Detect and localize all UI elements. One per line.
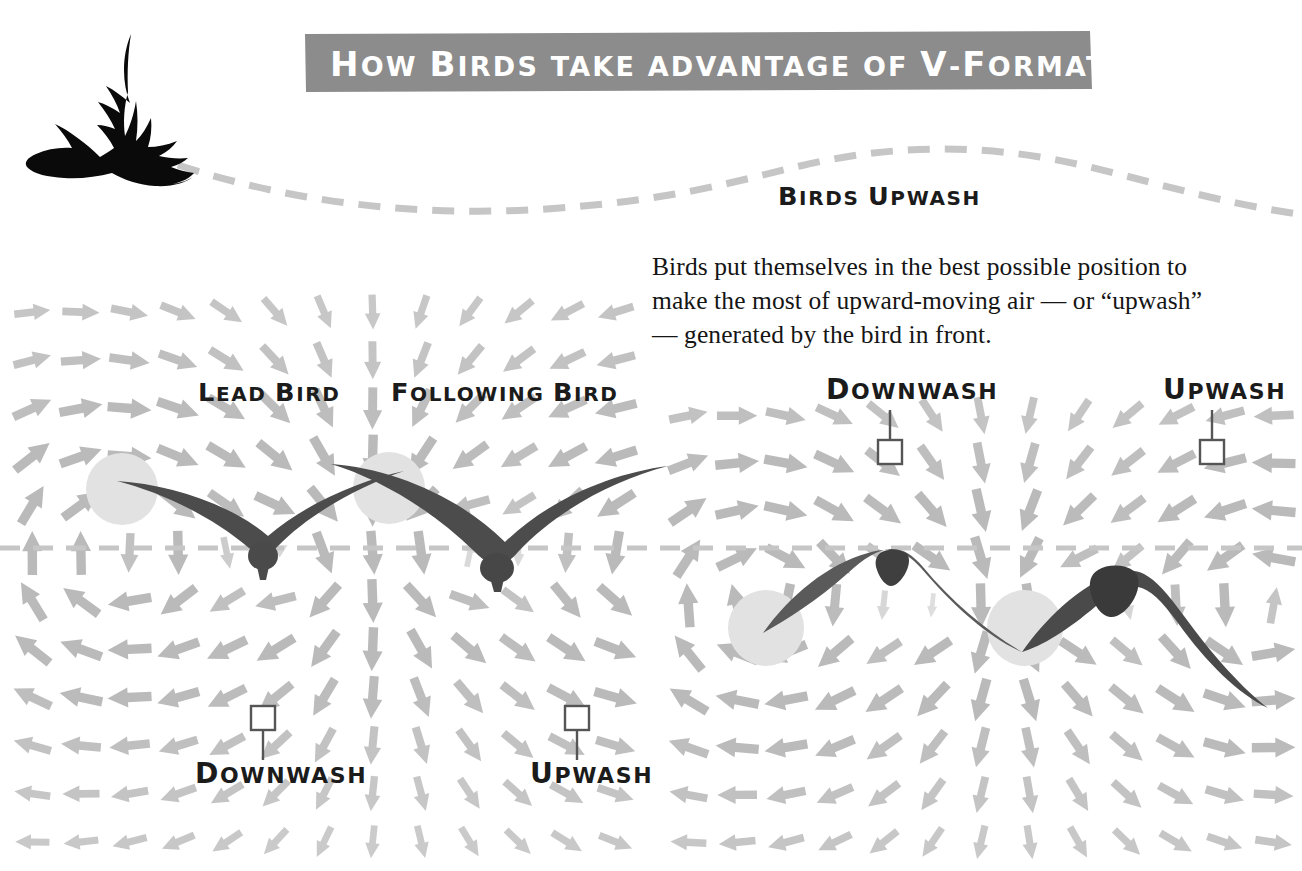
- flow-arrow: [64, 834, 99, 849]
- flow-arrow: [1254, 407, 1294, 425]
- flow-arrow: [1203, 689, 1246, 711]
- flow-arrow: [403, 582, 436, 618]
- flow-arrow: [1061, 681, 1093, 717]
- flow-arrow: [973, 825, 988, 859]
- flow-arrow: [1022, 825, 1037, 859]
- flow-arrow: [12, 399, 52, 421]
- flow-arrow: [365, 825, 379, 858]
- flow-arrow: [1159, 403, 1196, 425]
- flow-arrow: [71, 531, 91, 575]
- flow-arrow: [12, 443, 50, 474]
- flow-arrow: [1063, 492, 1097, 525]
- flow-arrow: [109, 737, 150, 755]
- flow-arrow: [970, 535, 991, 578]
- flow-arrow: [1112, 827, 1140, 854]
- flow-arrow: [459, 296, 483, 327]
- flow-arrow: [504, 827, 531, 853]
- flow-arrow: [548, 442, 588, 467]
- marker-square: [565, 706, 589, 730]
- intro-line: Birds put themselves in the best possibl…: [652, 250, 1212, 284]
- flow-arrow: [413, 341, 432, 378]
- flow-arrow: [413, 776, 429, 811]
- wingtip-vortex-circles: [86, 452, 1063, 666]
- flow-arrow: [1156, 733, 1195, 757]
- flow-arrow: [317, 825, 334, 856]
- flow-arrow: [107, 398, 151, 418]
- flow-arrow: [1068, 398, 1092, 432]
- flow-arrow: [1109, 731, 1143, 761]
- flow-arrow: [866, 400, 899, 428]
- flow-arrow: [1058, 637, 1097, 665]
- flow-arrow: [59, 398, 103, 418]
- flow-arrow: [208, 346, 244, 371]
- flow-arrow: [550, 581, 581, 617]
- flow-arrow: [595, 736, 635, 755]
- flow-arrow: [61, 351, 101, 369]
- flow-arrow: [972, 727, 991, 768]
- flow-arrow: [866, 638, 902, 664]
- label-right-downwash: DOWNWASH: [826, 373, 998, 406]
- flow-arrow: [61, 736, 101, 754]
- flow-arrow: [62, 304, 99, 321]
- flow-arrow: [501, 442, 539, 467]
- flow-arrow: [813, 496, 854, 522]
- flow-arrow: [255, 439, 292, 470]
- following-bird-tail: [489, 574, 505, 592]
- flying-goose-silhouette: [26, 34, 194, 186]
- flow-arrow: [1158, 633, 1191, 669]
- flow-arrow: [121, 533, 139, 573]
- flow-arrow: [413, 294, 430, 328]
- flow-arrow: [715, 453, 759, 473]
- flow-arrow: [1067, 825, 1087, 857]
- flow-arrow: [865, 684, 903, 712]
- intro-line: — generated by the bird in front.: [652, 318, 1212, 352]
- flow-arrow: [669, 786, 708, 803]
- flow-arrow: [501, 730, 534, 758]
- intro-line: make the most of upward-moving air — or …: [652, 284, 1212, 318]
- flow-arrow: [207, 636, 248, 659]
- flow-arrow: [715, 500, 759, 520]
- flow-arrow: [411, 530, 431, 574]
- flow-arrow: [818, 831, 853, 850]
- flow-arrow: [550, 830, 582, 852]
- right-lead-bird-head: [876, 550, 909, 586]
- flow-arrow: [673, 539, 701, 579]
- flow-arrow: [1162, 538, 1194, 574]
- flow-arrow: [815, 735, 856, 757]
- flow-arrow: [1203, 737, 1246, 757]
- flow-arrow: [162, 832, 196, 850]
- flow-arrow: [161, 584, 199, 614]
- flow-arrow: [870, 828, 900, 853]
- flow-arrow: [558, 533, 576, 573]
- flow-arrow: [209, 732, 246, 755]
- flow-arrow: [208, 684, 248, 707]
- flow-arrow: [157, 687, 200, 707]
- flow-arrow: [14, 304, 50, 320]
- flow-arrow: [313, 677, 339, 716]
- flow-arrow: [1155, 684, 1194, 712]
- flow-arrow: [499, 681, 534, 710]
- flow-arrow: [914, 637, 953, 665]
- flow-arrow: [1253, 786, 1293, 804]
- flow-arrow: [764, 691, 808, 711]
- flow-arrow: [210, 587, 246, 612]
- flow-arrow: [763, 453, 807, 473]
- flow-arrow: [1110, 779, 1141, 808]
- flow-arrow: [60, 687, 104, 707]
- flow-arrow: [257, 634, 297, 661]
- flow-arrow: [547, 733, 584, 755]
- flow-arrow: [1066, 444, 1094, 479]
- flow-arrow: [973, 776, 990, 813]
- flow-arrow: [1252, 548, 1296, 568]
- flow-arrow: [1113, 400, 1145, 428]
- flow-arrow: [62, 785, 99, 802]
- flow-arrow: [13, 351, 51, 369]
- flow-arrow: [157, 637, 200, 659]
- flow-arrow: [605, 530, 625, 574]
- flow-arrow: [1158, 830, 1191, 852]
- flow-arrow: [927, 593, 937, 618]
- flow-arrow: [309, 435, 335, 476]
- flow-arrow: [825, 584, 844, 627]
- label-right-upwash: UPWASH: [1163, 373, 1286, 406]
- flow-arrow: [412, 726, 430, 764]
